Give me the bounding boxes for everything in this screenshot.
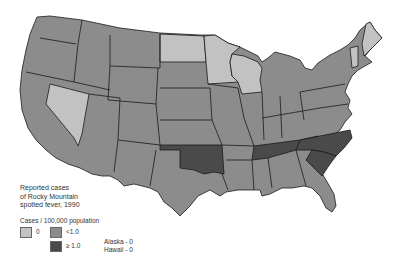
map-title: Reported cases of Rocky Mountain spotted… [20, 184, 80, 210]
legend-swatch-high [50, 241, 62, 252]
us-choropleth-map [0, 0, 408, 264]
legend-units: Cases / 100,000 population [20, 217, 99, 224]
legend-swatch-low [50, 227, 62, 238]
legend-label-low: <1.0 [66, 228, 79, 235]
legend-label-high: ≥ 1.0 [66, 242, 80, 249]
alaska-hawaii-note: Alaska - 0 Hawaii - 0 [104, 238, 133, 254]
legend-swatch-zero [20, 227, 32, 238]
legend-label-zero: 0 [36, 228, 40, 235]
state-maine [362, 22, 382, 56]
state-north-dakota [160, 34, 206, 62]
